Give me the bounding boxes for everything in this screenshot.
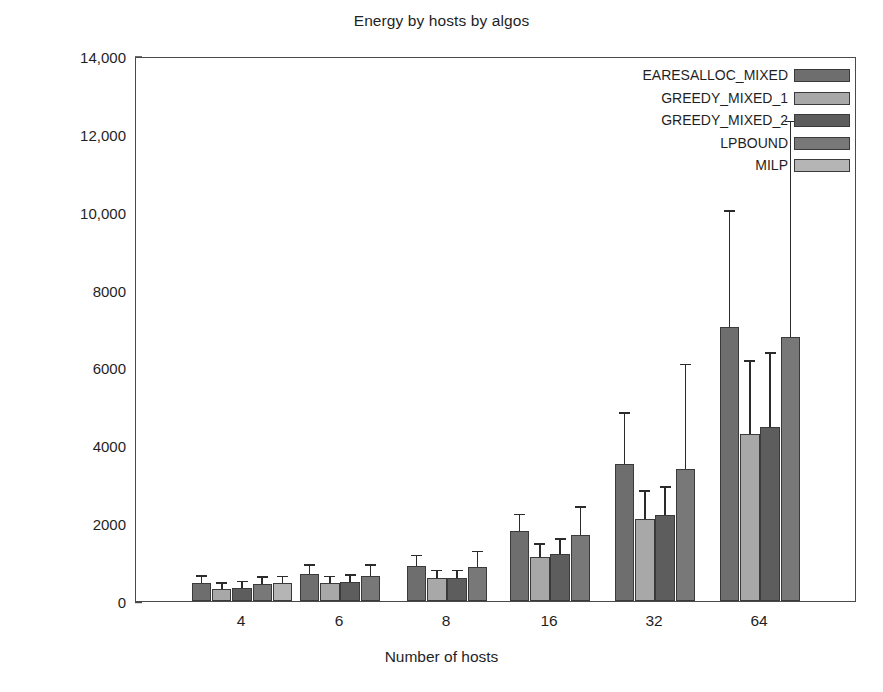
bar <box>720 327 740 601</box>
error-bar-cap <box>724 210 735 212</box>
bar <box>361 576 381 601</box>
error-bar-cap <box>452 570 463 572</box>
error-bar-cap <box>765 352 776 354</box>
error-bar-cap <box>534 543 545 545</box>
error-bar-line <box>282 577 284 583</box>
error-bar-cap <box>660 486 671 488</box>
bar <box>253 584 273 601</box>
legend-item[interactable]: LPBOUND <box>595 134 850 153</box>
legend-item[interactable]: EARESALLOC_MIXED <box>595 66 850 85</box>
bar <box>212 589 232 601</box>
error-bar-cap <box>514 514 525 516</box>
bar <box>781 337 801 601</box>
legend-item-swatch <box>794 137 850 150</box>
x-axis-tick-label: 8 <box>442 612 451 630</box>
legend-item-swatch <box>794 114 850 127</box>
x-axis-tick-label: 6 <box>335 612 344 630</box>
error-bar-line <box>749 362 751 435</box>
legend-item[interactable]: GREEDY_MIXED_1 <box>595 89 850 108</box>
error-bar-cap <box>365 564 376 566</box>
legend-item[interactable]: GREEDY_MIXED_2 <box>595 111 850 130</box>
y-axis-tick-label: 4000 <box>30 438 126 455</box>
error-bar-cap <box>304 564 315 566</box>
bar <box>340 582 360 601</box>
y-axis-tick-label: 10,000 <box>30 204 126 221</box>
error-bar-line <box>664 488 666 515</box>
error-bar-line <box>477 552 479 567</box>
bar <box>530 557 550 601</box>
bar <box>447 578 467 601</box>
bar <box>468 567 488 601</box>
error-bar-cap <box>345 574 356 576</box>
x-axis-title: Number of hosts <box>0 648 883 666</box>
bar <box>571 535 591 601</box>
y-axis-tick-label: 14,000 <box>30 49 126 66</box>
legend-item-swatch <box>794 92 850 105</box>
bar <box>320 583 340 601</box>
error-bar-line <box>580 508 582 535</box>
error-bar-cap <box>639 490 650 492</box>
error-bar-cap <box>575 506 586 508</box>
legend-item[interactable]: MILP <box>595 156 850 175</box>
chart-page: Energy by hosts by algos Energy 02000400… <box>0 0 883 692</box>
bar <box>192 583 212 601</box>
y-axis-tick-label: 0 <box>30 594 126 611</box>
x-axis-tick-label: 64 <box>750 612 767 630</box>
bar <box>635 519 655 601</box>
error-bar-cap <box>324 576 335 578</box>
error-bar-line <box>685 365 687 469</box>
error-bar-cap <box>472 551 483 553</box>
error-bar-line <box>221 584 223 589</box>
bar <box>273 583 293 601</box>
error-bar-line <box>201 577 203 583</box>
error-bar-line <box>436 571 438 577</box>
error-bar-cap <box>277 576 288 578</box>
chart-title: Energy by hosts by algos <box>0 12 883 30</box>
bar <box>407 566 427 601</box>
error-bar-line <box>644 492 646 519</box>
y-axis-tick-label: 6000 <box>30 360 126 377</box>
error-bar-line <box>519 515 521 531</box>
bar <box>300 574 320 601</box>
error-bar-line <box>261 578 263 584</box>
error-bar-line <box>416 556 418 566</box>
error-bar-cap <box>216 582 227 584</box>
error-bar-line <box>729 212 731 327</box>
y-axis-tick-label: 8000 <box>30 282 126 299</box>
bar <box>427 578 447 601</box>
error-bar-line <box>769 354 771 427</box>
error-bar-cap <box>196 575 207 577</box>
bar <box>510 531 530 601</box>
error-bar-line <box>241 582 243 588</box>
bar <box>740 434 760 601</box>
bar <box>676 469 696 601</box>
error-bar-cap <box>619 412 630 414</box>
x-axis-tick-label: 32 <box>645 612 662 630</box>
error-bar-cap <box>744 360 755 362</box>
bar <box>655 515 675 601</box>
chart-legend: EARESALLOC_MIXEDGREEDY_MIXED_1GREEDY_MIX… <box>595 66 850 179</box>
legend-item-label: GREEDY_MIXED_1 <box>661 89 788 108</box>
bar <box>232 588 252 601</box>
bar <box>550 554 570 601</box>
error-bar-line <box>559 540 561 555</box>
error-bar-line <box>624 414 626 464</box>
legend-item-label: LPBOUND <box>720 134 788 153</box>
legend-item-label: GREEDY_MIXED_2 <box>661 111 788 130</box>
legend-item-swatch <box>794 159 850 172</box>
error-bar-cap <box>411 555 422 557</box>
error-bar-cap <box>680 364 691 366</box>
error-bar-line <box>349 576 351 582</box>
error-bar-line <box>456 571 458 578</box>
error-bar-line <box>370 566 372 576</box>
error-bar-line <box>329 577 331 583</box>
legend-item-label: EARESALLOC_MIXED <box>643 66 789 85</box>
y-axis-tick-label: 2000 <box>30 516 126 533</box>
error-bar-cap <box>431 570 442 572</box>
x-axis-tick-label: 4 <box>237 612 246 630</box>
error-bar-cap <box>555 538 566 540</box>
legend-item-swatch <box>794 69 850 82</box>
x-axis-tick-label: 16 <box>540 612 557 630</box>
bar <box>760 427 780 601</box>
y-axis-tick-label: 12,000 <box>30 126 126 143</box>
